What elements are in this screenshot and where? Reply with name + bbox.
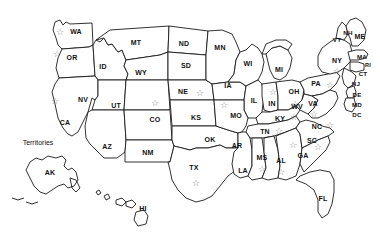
state-label-al: AL: [276, 157, 286, 164]
star-icon-or: ☆: [53, 50, 61, 59]
state-label-ks: KS: [191, 114, 201, 121]
state-label-nv: NV: [78, 96, 88, 103]
state-label-in: IN: [268, 100, 275, 107]
state-label-ia: IA: [224, 82, 231, 89]
state-label-ca: CA: [60, 119, 71, 126]
state-label-tx: TX: [189, 164, 198, 171]
state-label-fl: FL: [319, 195, 328, 202]
star-icon-pa: ☆: [326, 81, 334, 90]
territories-label: Territories: [23, 139, 54, 146]
state-label-tn: TN: [260, 128, 270, 135]
state-label-la: LA: [238, 167, 248, 174]
state-label-pa: PA: [311, 80, 321, 87]
state-label-nd: ND: [179, 40, 190, 47]
state-label-ne: NE: [178, 88, 188, 95]
state-label-nj: NJ: [352, 80, 360, 87]
star-icon-ga: ☆: [289, 141, 297, 150]
state-label-mi: MI: [275, 66, 283, 73]
state-label-az: AZ: [102, 143, 112, 150]
state-label-ma: MA: [357, 53, 367, 60]
state-label-nm: NM: [142, 149, 153, 156]
state-label-wy: WY: [135, 69, 147, 76]
state-label-mt: MT: [131, 39, 142, 46]
state-label-vt: VT: [333, 36, 341, 43]
state-label-wv: WV: [291, 103, 303, 110]
star-icon-ky: ☆: [290, 113, 298, 122]
state-label-dc: DC: [352, 111, 361, 118]
state-label-mn: MN: [214, 44, 225, 51]
state-label-id: ID: [99, 63, 106, 70]
state-label-ms: MS: [257, 154, 268, 161]
state-label-mo: MO: [230, 112, 242, 119]
state-label-nc: NC: [312, 123, 323, 130]
star-icon-tx: ☆: [192, 179, 200, 188]
star-icon-tn: ☆: [275, 127, 283, 136]
star-icon-ms: ☆: [258, 165, 266, 174]
star-icon-mo: ☆: [220, 101, 228, 110]
state-label-ky: KY: [275, 115, 285, 122]
state-label-va: VA: [308, 100, 318, 107]
state-label-oh: OH: [289, 88, 300, 95]
state-label-ga: GA: [298, 152, 309, 159]
state-label-il: IL: [251, 97, 258, 104]
star-icon-wa: ☆: [56, 28, 64, 37]
us-map-container: WA☆OR☆IDMTWYNDSDNE☆MNIAWIMIILIN☆OH☆MO☆KS…: [0, 0, 380, 237]
star-icon-ne: ☆: [196, 89, 204, 98]
state-label-ak: AK: [45, 169, 56, 176]
star-icon-in: ☆: [269, 88, 277, 97]
star-icon-ca: ☆: [51, 97, 59, 106]
state-label-wa: WA: [70, 28, 82, 35]
state-label-ct: CT: [359, 70, 368, 77]
star-icon-al: ☆: [277, 168, 285, 177]
state-label-sd: SD: [181, 62, 191, 69]
state-label-nh: NH: [343, 29, 352, 36]
state-label-ri: RI: [365, 62, 371, 68]
state-label-wi: WI: [244, 60, 253, 67]
state-label-or: OR: [67, 54, 78, 61]
star-icon-va: ☆: [310, 110, 318, 119]
state-label-ny: NY: [332, 57, 342, 64]
state-label-hi: HI: [139, 205, 146, 212]
state-label-me: ME: [355, 33, 366, 40]
state-label-md: MD: [352, 101, 362, 108]
state-label-ut: UT: [111, 102, 121, 109]
star-icon-ny: ☆: [333, 67, 341, 76]
state-label-de: DE: [353, 91, 362, 98]
star-icon-co: ☆: [151, 99, 159, 108]
state-label-ok: OK: [205, 136, 216, 143]
state-label-co: CO: [150, 116, 161, 123]
state-label-ar: AR: [232, 142, 243, 149]
star-icon-sc: ☆: [314, 143, 322, 152]
star-icon-nc: ☆: [326, 121, 334, 130]
